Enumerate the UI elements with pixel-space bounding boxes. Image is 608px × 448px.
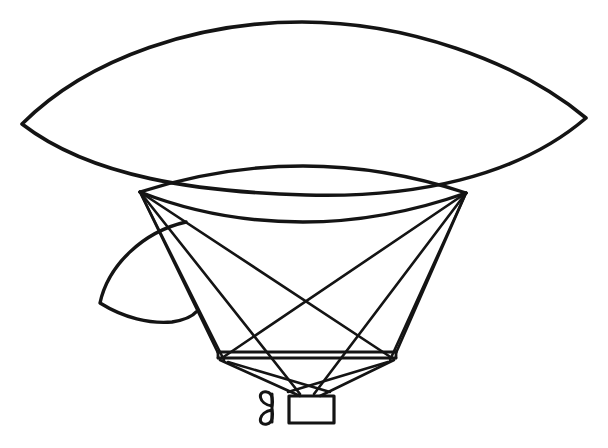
drawing-background xyxy=(0,0,608,448)
illustration-canvas xyxy=(0,0,608,448)
airship-line-drawing xyxy=(0,0,608,448)
